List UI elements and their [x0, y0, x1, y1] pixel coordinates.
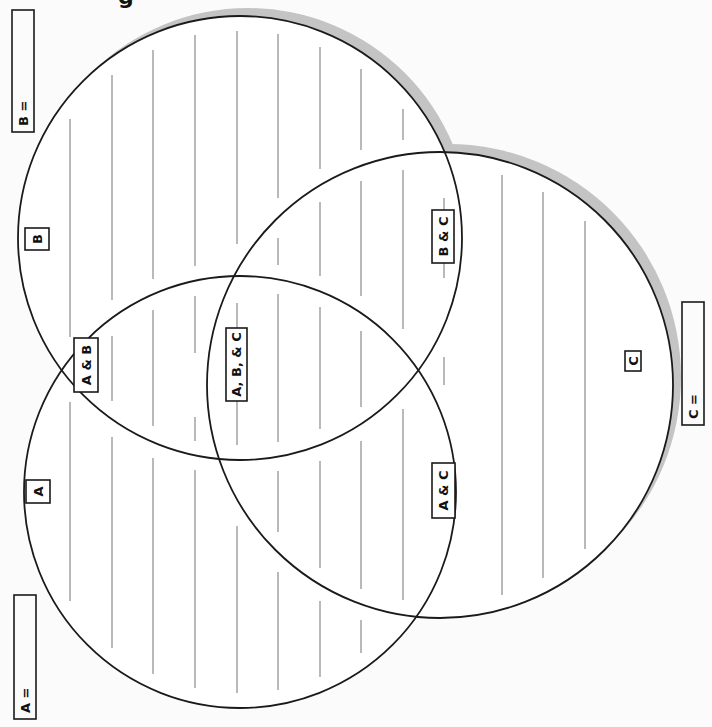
- label-a-b-and-c-text: A, B, & C: [229, 332, 244, 397]
- title-fragment: g: [118, 0, 134, 9]
- answer-box-b[interactable]: B =: [12, 10, 34, 132]
- label-set-c-text: C: [626, 356, 641, 366]
- label-b-and-c: B & C: [432, 210, 454, 263]
- label-set-b-text: B: [30, 234, 45, 244]
- label-b-and-c-text: B & C: [436, 217, 451, 257]
- answer-box-a-label: A =: [18, 688, 33, 713]
- label-a-b-and-c: A, B, & C: [226, 328, 247, 401]
- answer-box-b-label: B =: [16, 101, 31, 126]
- circle-fills: [18, 16, 673, 708]
- answer-box-a[interactable]: A =: [14, 595, 36, 719]
- label-set-a-text: A: [31, 486, 46, 496]
- label-set-c: C: [625, 351, 641, 371]
- label-set-b: B: [25, 228, 49, 250]
- label-set-a: A: [26, 480, 50, 503]
- label-a-and-c: A & C: [432, 463, 455, 518]
- label-a-and-c-text: A & C: [436, 471, 451, 511]
- label-a-and-b-text: A & B: [79, 345, 94, 385]
- answer-box-c-label: C =: [686, 394, 701, 419]
- answer-box-c[interactable]: C =: [682, 302, 704, 425]
- label-a-and-b: A & B: [74, 338, 98, 392]
- venn-diagram: g BAA & BA, B, & CB & CA & CC B =A =C =: [0, 0, 712, 727]
